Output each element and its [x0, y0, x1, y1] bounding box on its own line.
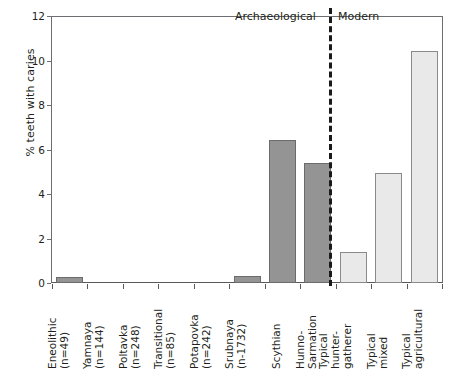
y-tick-mark: [47, 194, 51, 195]
x-axis-label-line: hunter-: [329, 324, 341, 369]
bar: [340, 252, 367, 283]
x-axis-label-line: (n-1732): [235, 319, 247, 369]
x-axis-label-line: Yamnaya: [81, 322, 93, 369]
y-tick-label: 12: [0, 10, 45, 22]
x-axis-label-line: (n=242): [200, 314, 212, 369]
bar: [411, 51, 438, 284]
bar: [304, 163, 331, 283]
y-tick-mark: [47, 283, 51, 284]
y-tick-label: 4: [0, 188, 45, 200]
x-axis-label-line: Transitional: [152, 309, 164, 369]
y-tick-mark: [47, 150, 51, 151]
x-tick-mark: [371, 284, 372, 289]
y-tick-mark: [47, 105, 51, 106]
x-axis-label-line: Poltavka: [117, 325, 129, 369]
x-tick-mark: [229, 284, 230, 289]
bar: [56, 277, 83, 283]
x-axis-label: Srubnaya(n-1732): [229, 290, 264, 369]
x-tick-mark: [300, 284, 301, 289]
x-axis-label-line: (n=248): [129, 325, 141, 369]
y-tick-mark: [47, 239, 51, 240]
y-tick-mark: [47, 16, 51, 17]
bar: [234, 276, 261, 283]
group-label-archaeological: Archaeological: [235, 10, 316, 23]
x-axis-label-line: Eneolithic: [46, 318, 58, 369]
y-tick-label: 2: [0, 233, 45, 245]
x-axis-label-line: agricultural: [412, 309, 424, 369]
group-label-modern: Modern: [338, 10, 379, 23]
bar: [375, 173, 402, 283]
x-axis-label: Typicalagricultural: [407, 290, 442, 369]
y-tick-label: 0: [0, 277, 45, 289]
x-axis-label-line: Typical: [317, 324, 329, 369]
x-axis-label-line: Potapovka: [188, 314, 200, 369]
x-axis-label-line: mixed: [377, 333, 389, 369]
y-tick-label: 8: [0, 99, 45, 111]
x-axis-label-line: (n=49): [58, 318, 70, 369]
x-axis-label-line: gatherer: [341, 324, 353, 369]
x-tick-mark: [123, 284, 124, 289]
x-tick-mark: [87, 284, 88, 289]
x-axis-label-line: (n=144): [93, 322, 105, 369]
x-axis-labels: Eneolithic(n=49)Yamnaya(n=144)Poltavka(n…: [52, 290, 442, 369]
caries-bar-chart: % teeth with caries 024681012 Archaeolog…: [0, 0, 454, 369]
x-axis-label-line: Scythian: [270, 324, 282, 369]
y-tick-mark: [47, 61, 51, 62]
x-axis-label-line: Typical: [400, 309, 412, 369]
x-axis-label-line: Hunno-: [294, 315, 306, 369]
x-axis-label-line: Typical: [365, 333, 377, 369]
x-axis-label-line: (n=85): [164, 309, 176, 369]
x-tick-mark: [407, 284, 408, 289]
x-axis-label-line: Srubnaya: [223, 319, 235, 369]
y-tick-label: 10: [0, 55, 45, 67]
x-tick-mark: [194, 284, 195, 289]
x-tick-mark: [336, 284, 337, 289]
x-tick-mark: [442, 284, 443, 289]
archaeological-modern-divider: [329, 8, 332, 286]
bars-layer: [52, 16, 442, 283]
x-tick-mark: [52, 284, 53, 289]
x-tick-mark: [158, 284, 159, 289]
bar: [269, 140, 296, 284]
y-tick-label: 6: [0, 144, 45, 156]
x-tick-mark: [265, 284, 266, 289]
